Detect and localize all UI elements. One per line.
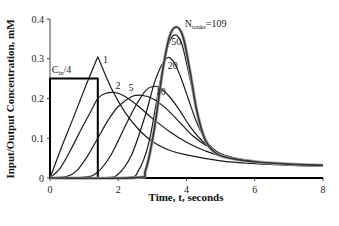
x-tick-label: 0 [48, 184, 53, 195]
y-axis-title: Input/Output Concentration, mM [4, 19, 16, 179]
series-line-109 [50, 27, 323, 178]
annotation-label: 1 [103, 54, 108, 65]
annotation-label: 5 [128, 82, 133, 93]
annotation-label: 10 [156, 86, 166, 97]
x-tick-label: 8 [321, 184, 326, 195]
y-tick-label: 0.1 [32, 133, 45, 144]
y-tick-label: 0 [39, 173, 44, 184]
concentration-chart: 00.10.20.30.402468 125102050Ntanks=109Ci… [0, 0, 339, 226]
y-tick-label: 0.2 [32, 93, 45, 104]
annotation-label: Cin/4 [52, 64, 72, 76]
annotation-label: 2 [116, 80, 121, 91]
annotation-label: 50 [171, 36, 181, 47]
annotation-label: Ntanks=109 [185, 18, 227, 30]
annotation-label: 20 [168, 60, 178, 71]
y-tick-label: 0.3 [32, 53, 45, 64]
series-lines [50, 27, 323, 178]
annotations: 125102050Ntanks=109Cin/4 [52, 18, 227, 97]
x-axis-title: Time, t, seconds [149, 191, 225, 203]
series-line-1 [50, 57, 323, 178]
x-tick-label: 6 [252, 184, 257, 195]
series-line-20 [50, 57, 323, 178]
y-tick-label: 0.4 [32, 14, 45, 25]
x-tick-label: 2 [116, 184, 121, 195]
